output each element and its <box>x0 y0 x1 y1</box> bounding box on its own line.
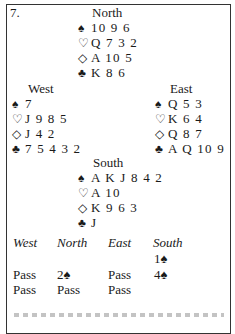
heart-icon: ♡ <box>155 112 168 127</box>
bid-cell: Pass <box>57 282 80 297</box>
spade-icon: ♠ <box>155 97 168 112</box>
spade-icon: ♠ <box>12 97 25 112</box>
club-icon: ♣ <box>78 66 91 81</box>
west-diamonds: ◇J 4 2 <box>12 126 56 142</box>
north-label: North <box>92 5 122 20</box>
south-diamonds: ◇K 9 6 3 <box>78 200 138 216</box>
heart-icon: ♡ <box>78 36 91 51</box>
north-diamonds: ◇A 10 5 <box>78 50 133 66</box>
north-clubs: ♣K 8 6 <box>78 65 126 81</box>
east-hearts: ♡K 6 4 <box>155 111 203 127</box>
bid-header-east: East <box>108 235 131 250</box>
diamond-icon: ◇ <box>155 127 168 142</box>
bid-cell: 1♠ <box>154 251 167 266</box>
club-icon: ♣ <box>78 216 91 231</box>
bid-cell: Pass <box>13 282 36 297</box>
north-spades: ♠10 9 6 <box>78 20 131 36</box>
club-icon: ♣ <box>12 142 25 157</box>
east-clubs: ♣A Q 10 9 <box>155 141 225 157</box>
east-label: East <box>170 81 192 96</box>
heart-icon: ♡ <box>12 112 25 127</box>
west-label: West <box>28 81 54 96</box>
spade-icon: ♠ <box>78 171 91 186</box>
bid-header-north: North <box>57 235 87 250</box>
diamond-icon: ◇ <box>12 127 25 142</box>
west-clubs: ♣7 5 4 3 2 <box>12 141 81 157</box>
south-hearts: ♡A 10 <box>78 185 121 201</box>
bid-header-south: South <box>153 235 183 250</box>
spade-icon: ♠ <box>78 21 91 36</box>
deal-number: 7. <box>10 5 20 20</box>
bid-header-west: West <box>13 235 37 250</box>
bid-cell: 2♠ <box>57 267 70 282</box>
diamond-icon: ◇ <box>78 51 91 66</box>
bid-cell: Pass <box>13 267 36 282</box>
clipped-text-line <box>14 313 224 317</box>
west-hearts: ♡J 9 8 5 <box>12 111 68 127</box>
south-spades: ♠A K J 8 4 2 <box>78 170 163 186</box>
club-icon: ♣ <box>155 142 168 157</box>
heart-icon: ♡ <box>78 186 91 201</box>
north-hearts: ♡Q 7 3 2 <box>78 35 138 51</box>
south-label: South <box>93 155 123 170</box>
west-spades: ♠7 <box>12 96 33 112</box>
east-spades: ♠Q 5 3 <box>155 96 203 112</box>
bid-cell: Pass <box>108 282 131 297</box>
diamond-icon: ◇ <box>78 201 91 216</box>
bid-cell: 4♠ <box>154 267 167 282</box>
east-diamonds: ◇Q 8 7 <box>155 126 203 142</box>
south-clubs: ♣J <box>78 215 97 231</box>
bid-cell: Pass <box>108 267 131 282</box>
